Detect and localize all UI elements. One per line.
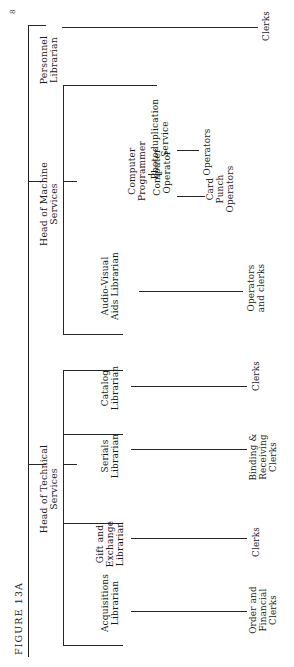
connector-photoduplication-to-operators [177,150,199,151]
node-binding-receiving-clerks: Binding & Receiving Clerks [249,414,279,500]
connector-personnel-to-clerks [62,27,258,28]
connector-computer-operator-to-card-punch [177,196,205,197]
node-serials-librarian: Serials Librarian [100,412,120,500]
connector-photoduplication [63,85,157,86]
node-acquisitions-librarian: Acquisitions Librarian [100,551,120,655]
connector-acquisitions-to-order-financial [131,611,247,612]
connector-machine-services-to-bus [63,181,77,182]
node-operators-and-clerks: Operators and clerks [247,242,267,334]
connector-gift-to-clerks [131,538,247,539]
connector-catalog-to-clerks [131,386,247,387]
connector-audio-visual [63,334,123,335]
node-audio-visual-aids-librarian: Audio-Visual Aids Librarian [100,238,120,334]
node-order-financial-clerks: Order and Financial Clerks [249,565,279,655]
connector-serials-to-binding [131,449,247,450]
node-head-technical-services: Head of Technical Services [39,430,60,548]
node-card-punch-operators: Card Punch Operators [206,146,236,232]
node-computer-operator: Computer Operator [152,122,172,222]
node-computer-programmer: Computer Programmer [127,120,147,222]
bus-technical-services [63,370,64,645]
node-gift-clerks: Clerks [252,512,262,572]
node-head-machine-services: Head of Machine Services [39,148,60,260]
node-personnel-librarian: Personnel Librarian [39,24,60,96]
connector-technical-services-to-bus [63,464,77,465]
figure-page: 8 FIGURE 13A Personnel Librarian Clerks … [0,0,294,667]
figure-caption: FIGURE 13A [14,582,25,655]
bus-machine-services [63,85,64,334]
node-catalog-clerks: Clerks [252,346,262,406]
page-number: 8 [10,9,18,14]
node-personnel-clerks: Clerks [262,0,272,56]
trunk-line [28,25,29,657]
connector-audio-visual-to-operators-clerks [139,291,243,292]
